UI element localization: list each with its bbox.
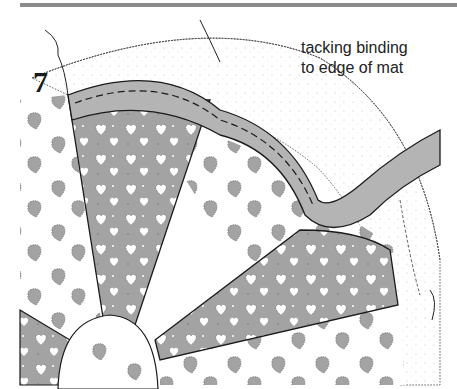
caption: tacking binding to edge of mat bbox=[301, 38, 408, 78]
caption-line-1: tacking binding bbox=[301, 38, 408, 58]
step-number: 7 bbox=[33, 67, 48, 97]
caption-line-2: to edge of mat bbox=[301, 58, 408, 78]
